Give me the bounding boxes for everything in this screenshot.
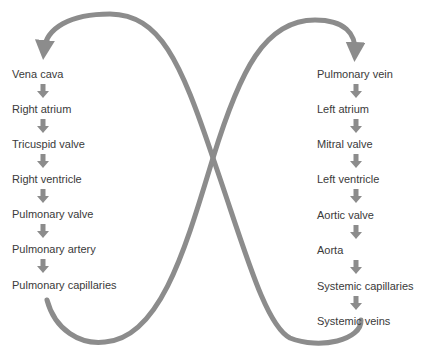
down-arrow-icon xyxy=(350,84,362,98)
label-right-ventricle: Right ventricle xyxy=(12,173,82,186)
label-left-ventricle: Left ventricle xyxy=(317,173,379,186)
down-arrow-icon xyxy=(350,154,362,168)
pulmonary-circuit-curve xyxy=(47,20,355,342)
down-arrow-icon xyxy=(37,189,49,203)
label-systemic-veins: Systemic veins xyxy=(317,315,390,328)
label-right-atrium: Right atrium xyxy=(12,103,71,116)
label-aorta: Aorta xyxy=(317,244,343,257)
down-arrow-icon xyxy=(350,260,362,274)
systemic-return-curve xyxy=(44,14,361,343)
down-arrow-icon xyxy=(37,154,49,168)
down-arrow-icon xyxy=(37,84,49,98)
circulation-diagram: Vena cava Right atrium Tricuspid valve R… xyxy=(0,0,421,357)
down-arrow-icon xyxy=(350,225,362,239)
down-arrow-icon xyxy=(350,296,362,310)
label-pulmonary-vein: Pulmonary vein xyxy=(317,68,393,81)
label-left-atrium: Left atrium xyxy=(317,103,369,116)
label-tricuspid-valve: Tricuspid valve xyxy=(12,138,85,151)
down-arrow-icon xyxy=(37,224,49,238)
label-pulmonary-artery: Pulmonary artery xyxy=(12,243,96,256)
down-arrow-icon xyxy=(37,259,49,273)
label-mitral-valve: Mitral valve xyxy=(317,138,373,151)
down-arrow-icon xyxy=(37,119,49,133)
right-down-arrows xyxy=(350,84,362,310)
label-pulmonary-capillaries: Pulmonary capillaries xyxy=(12,279,117,292)
label-vena-cava: Vena cava xyxy=(12,68,63,81)
label-pulmonary-valve: Pulmonary valve xyxy=(12,208,93,221)
label-systemic-capillaries: Systemic capillaries xyxy=(317,280,414,293)
down-arrow-icon xyxy=(350,119,362,133)
label-aortic-valve: Aortic valve xyxy=(317,209,374,222)
down-arrow-icon xyxy=(350,189,362,203)
